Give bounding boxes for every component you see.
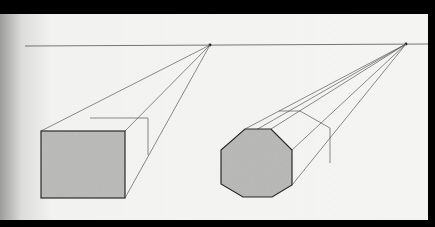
right-bar — [428, 0, 435, 227]
perspective-drawing — [0, 0, 435, 227]
bottom-bar — [0, 220, 435, 227]
box-front-face — [41, 131, 125, 198]
